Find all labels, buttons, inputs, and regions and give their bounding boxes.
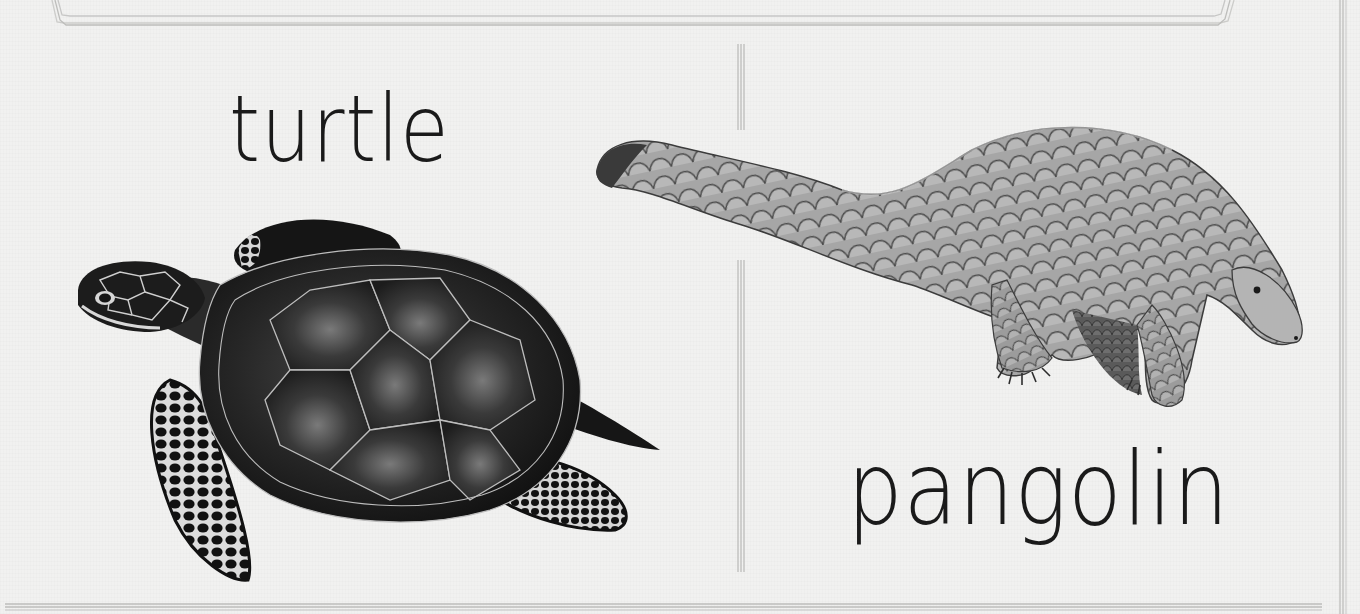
pangolin-illustration	[592, 110, 1312, 410]
sea-turtle-illustration	[70, 210, 670, 590]
pangolin-label: pangolin	[847, 438, 1230, 540]
turtle-label: turtle	[229, 84, 450, 176]
